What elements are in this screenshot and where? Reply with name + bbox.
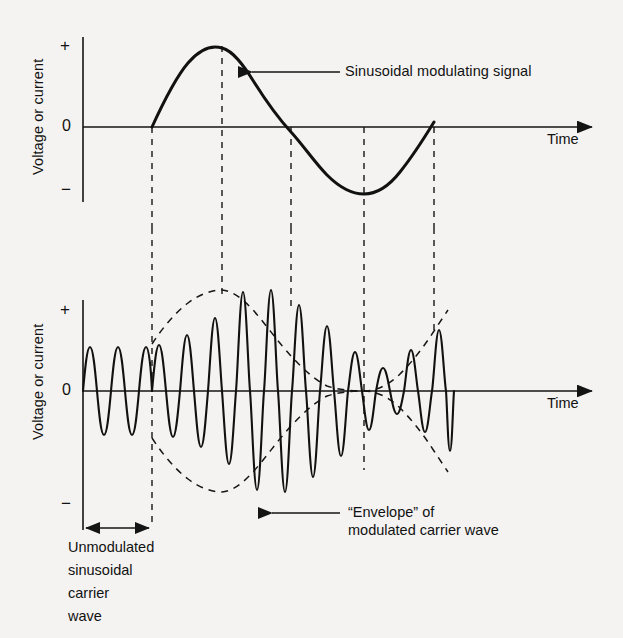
modulating-signal-annotation: Sinusoidal modulating signal [345,63,532,81]
upper-x-axis-label: Time [547,131,579,149]
carrier-annotation-line-1: Unmodulated [68,538,154,557]
upper-y-axis-label: Voltage or current [30,59,48,175]
carrier-envelope-lower [152,391,448,492]
upper-y-tick-zero: 0 [62,116,71,136]
carrier-annotation-line-3: carrier [68,584,109,603]
lower-y-axis-label: Voltage or current [30,324,48,440]
upper-plot-axes [83,37,592,202]
lower-y-tick-zero: 0 [62,380,71,400]
carrier-annotation-line-4: wave [68,607,102,626]
upper-y-tick-plus: + [60,36,70,57]
envelope-annotation-line-1: “Envelope” of [348,503,434,522]
upper-y-tick-minus: − [61,180,71,201]
lower-plot-axes [83,300,592,530]
lower-x-axis-label: Time [547,395,579,413]
carrier-annotation-line-2: sinusoidal [68,561,133,580]
figure-canvas: Voltage or current + 0 − Time Sinusoidal… [0,0,623,638]
lower-y-tick-plus: + [60,300,70,321]
lower-y-tick-minus: − [61,494,71,515]
envelope-annotation-line-2: modulated carrier wave [348,521,499,540]
